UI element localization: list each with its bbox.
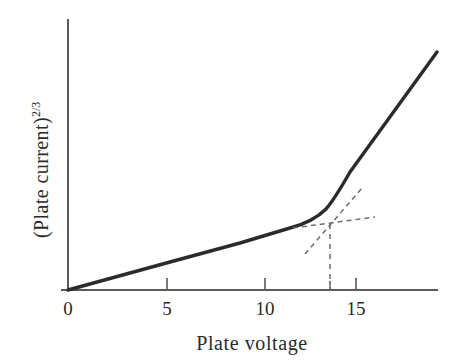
x-tick-label-10: 10 [256, 298, 275, 319]
x-tick-label-0: 0 [63, 298, 73, 319]
x-axis-title: Plate voltage [196, 332, 308, 355]
x-tick-label-5: 5 [162, 298, 172, 319]
chart-figure: 0 5 10 15 Plate voltage (Plate current)2… [0, 0, 467, 363]
plate-characteristic-curve [68, 52, 437, 290]
x-tick-label-15: 15 [347, 298, 366, 319]
plot-canvas: 0 5 10 15 Plate voltage [0, 0, 467, 363]
